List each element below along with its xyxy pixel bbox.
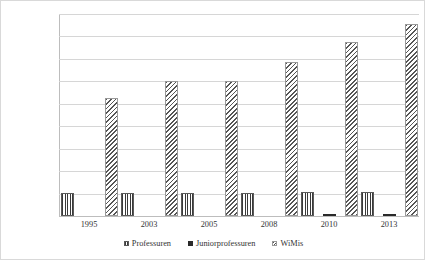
x-axis-tick-label: 2010 xyxy=(299,220,359,234)
bar-professuren[interactable] xyxy=(181,193,194,216)
bar-wimis[interactable] xyxy=(405,24,418,216)
bar-professuren[interactable] xyxy=(241,193,254,216)
x-axis-tick-label: 2005 xyxy=(179,220,239,234)
bar-group xyxy=(239,14,299,216)
bar-group xyxy=(299,14,359,216)
bar-professuren[interactable] xyxy=(61,193,74,216)
bar-wimis[interactable] xyxy=(105,98,118,216)
bar-group xyxy=(179,14,239,216)
legend-item-professuren[interactable]: Professuren xyxy=(124,239,171,248)
plot-inner: 180.000160.000140.000120.000100.00080.00… xyxy=(59,14,419,216)
bar-group xyxy=(59,14,119,216)
legend-label: Juniorprofessuren xyxy=(196,239,255,248)
legend-item-junior[interactable]: Juniorprofessuren xyxy=(188,239,255,248)
legend-item-wimis[interactable]: WiMis xyxy=(272,239,303,248)
bar-professuren[interactable] xyxy=(301,192,314,216)
plot-area: 180.000160.000140.000120.000100.00080.00… xyxy=(59,14,419,216)
bar-professuren[interactable] xyxy=(121,193,134,216)
legend-swatch-icon xyxy=(272,241,277,246)
x-axis-tick-labels: 199520032005200820102013 xyxy=(59,220,419,234)
bar-group xyxy=(359,14,419,216)
chart-container: 180.000160.000140.000120.000100.00080.00… xyxy=(0,0,425,260)
legend-label: Professuren xyxy=(132,239,171,248)
bar-professuren[interactable] xyxy=(361,192,374,216)
chart-legend: ProfessurenJuniorprofessurenWiMis xyxy=(1,239,425,248)
legend-swatch-icon xyxy=(124,241,129,246)
bar-wimis[interactable] xyxy=(285,62,298,216)
bar-wimis[interactable] xyxy=(165,81,178,216)
bar-junior[interactable] xyxy=(323,214,336,216)
x-axis-tick-label: 1995 xyxy=(59,220,119,234)
bar-junior[interactable] xyxy=(383,214,396,216)
bar-group xyxy=(119,14,179,216)
x-axis-tick-label: 2003 xyxy=(119,220,179,234)
x-axis-tick-label: 2013 xyxy=(359,220,419,234)
bar-groups xyxy=(59,14,419,216)
bar-wimis[interactable] xyxy=(225,81,238,216)
bar-wimis[interactable] xyxy=(345,42,358,216)
x-axis-tick-label: 2008 xyxy=(239,220,299,234)
legend-label: WiMis xyxy=(280,239,303,248)
legend-swatch-icon xyxy=(188,241,193,246)
gridline xyxy=(59,216,419,217)
